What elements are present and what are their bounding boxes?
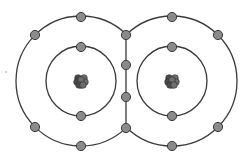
shared-electron (121, 92, 130, 101)
left-atom-outer-electron (30, 30, 39, 39)
right-atom-inner-electron (167, 111, 176, 120)
left-atom-outer-electron (76, 12, 85, 21)
left-atom-outer-electron (30, 122, 39, 131)
left-atom-nucleus-particle (80, 82, 87, 89)
left-atom-inner-electron (76, 42, 85, 51)
covalent-bond-diagram (0, 0, 249, 165)
right-atom-inner-electron (167, 42, 176, 51)
shared-electron (121, 60, 130, 69)
right-atom-outer-electron (167, 141, 176, 150)
left-atom-outer-electron (76, 141, 85, 150)
stray-dot (5, 71, 6, 72)
shared-electron (121, 30, 130, 39)
right-atom-outer-electron (213, 30, 222, 39)
diagram-canvas (0, 0, 249, 165)
right-atom-outer-electron (213, 122, 222, 131)
right-atom-nucleus-particle (171, 82, 178, 89)
left-atom-inner-electron (76, 111, 85, 120)
right-atom-outer-electron (167, 12, 176, 21)
shared-electron (121, 123, 130, 132)
